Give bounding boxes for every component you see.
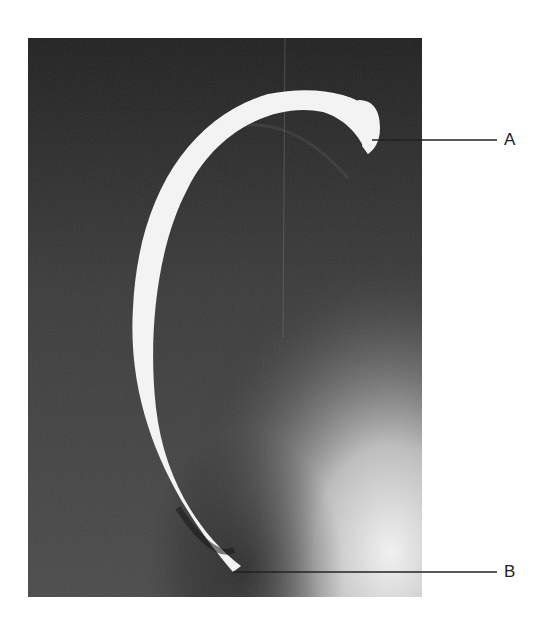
leader-lines (0, 0, 552, 617)
labeled-bone-figure: A B (0, 0, 552, 617)
label-a: A (504, 131, 515, 148)
label-b: B (504, 563, 515, 580)
